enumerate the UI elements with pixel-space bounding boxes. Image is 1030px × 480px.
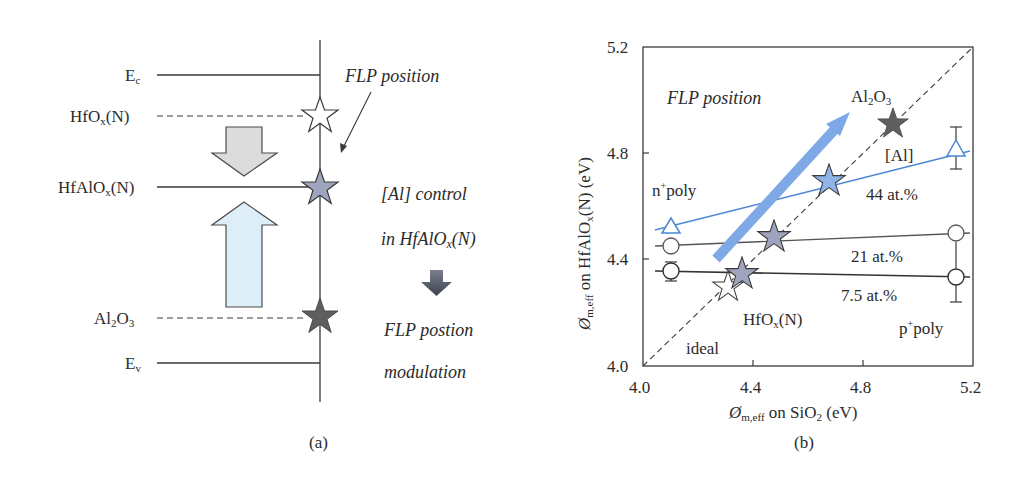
ideal-annotation: ideal: [686, 339, 719, 358]
ec-label: Ec: [125, 66, 140, 86]
x-tick-label: 4.0: [629, 378, 650, 397]
y-tick-label: 4.4: [607, 250, 629, 269]
at21-annotation: 21 at.%: [851, 247, 903, 266]
star-21-icon: [758, 220, 790, 251]
hfox-annotation: HfOx(N): [743, 310, 802, 330]
modulation-arrow-icon: [421, 270, 452, 296]
x-tick-label: 4.8: [850, 378, 871, 397]
flp-position-label: FLP position: [344, 66, 439, 86]
x-tick-label: 5.2: [960, 378, 981, 397]
hfalox-label: HfAlOx(N): [58, 178, 134, 198]
figure: Ec HfOx(N) HfAlOx(N) Al2O3 Ev FLP positi…: [0, 0, 1030, 480]
npoly-annotation: n+poly: [652, 180, 697, 200]
star-44-icon: [813, 164, 845, 195]
flp-pointer-arrowhead-icon: [340, 143, 347, 153]
x-axis-title: Øm,eff on SiO2 (eV): [728, 403, 857, 423]
al2o3-star-icon: [878, 108, 909, 137]
triangle-marker-icon: [947, 140, 965, 156]
up-arrow-icon: [212, 202, 277, 307]
circle-marker-icon: [663, 238, 679, 254]
al-annotation: [Al]: [885, 146, 913, 165]
series-75-line: [655, 271, 970, 277]
at75-annotation: 7.5 at.%: [841, 286, 897, 305]
ev-label: Ev: [125, 354, 141, 374]
al-control-label: [Al] control: [381, 184, 467, 204]
flp-position-annotation: FLP position: [666, 88, 761, 108]
down-arrow-icon: [212, 127, 277, 176]
series-21-line: [655, 233, 970, 246]
hfox-label: HfOx(N): [70, 107, 129, 127]
ppoly-annotation: p+poly: [899, 318, 944, 338]
panel-b: 4.0 4.4 4.8 5.2 4.0 4.4 4.8 5.2 Øm,eff o…: [575, 38, 981, 452]
y-tick-label: 5.2: [607, 38, 628, 57]
panel-a-caption: (a): [309, 433, 328, 452]
flp-postion-label: FLP postion: [383, 320, 473, 340]
flp-pointer-arrow: [343, 92, 371, 148]
triangle-marker-icon: [662, 218, 680, 233]
al2o3-annotation: Al2O3: [851, 87, 892, 107]
y-axis-title: Øm,eff on HfAlOx(N) (eV): [575, 157, 595, 331]
in-hfalox-label: in HfAlOx(N): [381, 229, 476, 251]
panel-a: Ec HfOx(N) HfAlOx(N) Al2O3 Ev FLP positi…: [58, 40, 476, 452]
x-tick-label: 4.4: [740, 378, 762, 397]
panel-b-caption: (b): [794, 433, 814, 452]
circle-marker-icon: [663, 263, 679, 279]
at44-annotation: 44 at.%: [866, 185, 918, 204]
y-tick-label: 4.8: [607, 144, 628, 163]
modulation-label: modulation: [384, 362, 466, 382]
circle-marker-icon: [948, 269, 964, 285]
al2o3-label: Al2O3: [94, 309, 135, 329]
y-tick-label: 4.0: [607, 357, 628, 376]
series-44-line: [655, 151, 970, 230]
circle-marker-icon: [948, 225, 964, 241]
